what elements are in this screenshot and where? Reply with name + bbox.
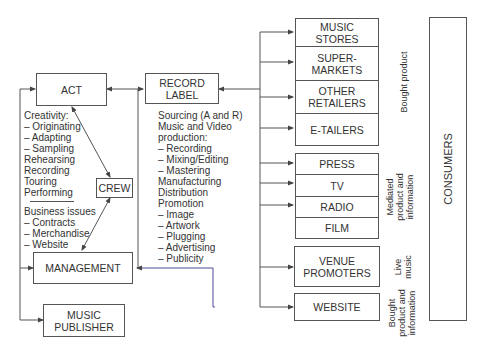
- outlet-other-retailers: OTHER RETAILERS: [295, 80, 379, 114]
- outlet-supermarkets: SUPER- MARKETS: [295, 46, 379, 81]
- label-activity: production:: [158, 132, 243, 143]
- label-activity: – Publicity: [158, 253, 243, 264]
- label-activity: Music and Video: [158, 121, 243, 132]
- label-activity: – Image: [158, 209, 243, 220]
- outlet-radio: RADIO: [295, 196, 379, 218]
- act-activity: – Adapting: [24, 132, 81, 143]
- label-activity: – Mixing/Editing: [158, 154, 243, 165]
- label-activity: Promotion: [158, 198, 243, 209]
- outlet-website: WEBSITE: [294, 293, 380, 321]
- crew-node: CREW: [96, 178, 133, 198]
- record-label-node: RECORD LABEL: [145, 73, 219, 104]
- label-activity: – Advertising: [158, 242, 243, 253]
- act-node: ACT: [36, 73, 107, 106]
- label-activity: Distribution: [158, 187, 243, 198]
- consumers-label: CONSUMERS: [442, 133, 454, 205]
- label-activity: Sourcing (A and R): [158, 110, 243, 121]
- act-creativity-list: Creativity: – Originating – Adapting – S…: [24, 110, 81, 198]
- management-node: MANAGEMENT: [33, 252, 133, 284]
- act-activity: – Originating: [24, 121, 81, 132]
- label-activity: – Mastering: [158, 165, 243, 176]
- act-business-list: Business issues – Contracts – Merchandis…: [24, 206, 96, 250]
- group-label-live-music: Live music: [393, 252, 415, 282]
- outlet-music-stores: MUSIC STORES: [295, 18, 379, 47]
- group-label-bought-product: Bought product: [399, 42, 411, 122]
- act-business-item: – Merchandise: [24, 228, 96, 239]
- act-activity: Performing: [24, 187, 81, 198]
- outlet-press: PRESS: [295, 153, 379, 175]
- group-label-bought-info: Bought product and information: [387, 288, 419, 338]
- label-activity: – Recording: [158, 143, 243, 154]
- act-list-divider: [30, 201, 74, 202]
- label-activity: Manufacturing: [158, 176, 243, 187]
- outlet-film: FILM: [295, 217, 379, 239]
- act-activity: – Sampling: [24, 143, 81, 154]
- record-label-activities: Sourcing (A and R) Music and Video produ…: [158, 110, 243, 264]
- act-business-item: Business issues: [24, 206, 96, 217]
- music-publisher-node: MUSIC PUBLISHER: [43, 304, 125, 337]
- act-activity: Creativity:: [24, 110, 81, 121]
- act-business-item: – Website: [24, 239, 96, 250]
- act-activity: Recording: [24, 165, 81, 176]
- outlet-e-tailers: E-TAILERS: [295, 113, 379, 146]
- consumers-node: CONSUMERS: [429, 17, 467, 321]
- act-business-item: – Contracts: [24, 217, 96, 228]
- outlet-tv: TV: [295, 174, 379, 197]
- act-activity: Touring: [24, 176, 81, 187]
- act-activity: Rehearsing: [24, 154, 81, 165]
- group-label-mediated: Mediated product and information: [385, 165, 417, 229]
- outlet-venue-promoters: VENUE PROMOTERS: [294, 246, 380, 287]
- label-activity: – Plugging: [158, 231, 243, 242]
- label-activity: – Artwork: [158, 220, 243, 231]
